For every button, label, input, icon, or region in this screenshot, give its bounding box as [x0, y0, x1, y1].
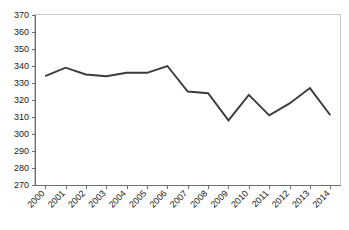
- line-chart: 270280290300310320330340350360370 200020…: [0, 0, 349, 230]
- y-tick-label: 270: [14, 180, 29, 190]
- y-tick-label: 350: [14, 44, 29, 54]
- y-tick-label: 290: [14, 146, 29, 156]
- y-tick-label: 310: [14, 112, 29, 122]
- y-tick-label: 360: [14, 27, 29, 37]
- y-tick-label: 300: [14, 129, 29, 139]
- y-tick-label: 330: [14, 78, 29, 88]
- y-tick-label: 320: [14, 95, 29, 105]
- chart-canvas: 270280290300310320330340350360370 200020…: [0, 0, 349, 230]
- y-tick-label: 370: [14, 10, 29, 20]
- y-tick-label: 280: [14, 163, 29, 173]
- y-tick-label: 340: [14, 61, 29, 71]
